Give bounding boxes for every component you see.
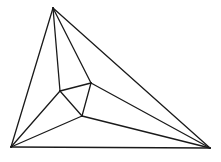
- edge-bottom_left-bottom_right: [11, 147, 210, 148]
- triangulation-diagram: [0, 0, 221, 162]
- edge-inner_right-inner_bottom: [82, 83, 91, 116]
- vertex-inner_right: [90, 82, 92, 84]
- vertex-bottom_left: [10, 146, 12, 148]
- vertex-inner_left: [59, 90, 61, 92]
- edge-top-bottom_right: [53, 8, 210, 148]
- edge-bottom_left-inner_left: [11, 91, 60, 147]
- vertex-bottom_right: [209, 147, 211, 149]
- edge-top-bottom_left: [11, 8, 53, 147]
- vertex-top: [52, 7, 54, 9]
- edge-inner_left-inner_right: [60, 83, 91, 91]
- edge-bottom_right-inner_right: [91, 83, 210, 148]
- vertex-inner_bottom: [81, 115, 83, 117]
- edge-inner_left-inner_bottom: [60, 91, 82, 116]
- edge-bottom_left-inner_bottom: [11, 116, 82, 147]
- edge-bottom_right-inner_bottom: [82, 116, 210, 148]
